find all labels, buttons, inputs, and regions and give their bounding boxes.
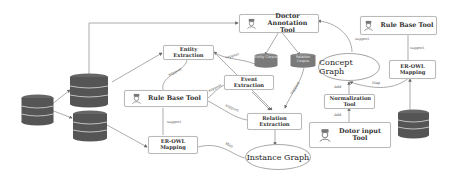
doctor-icon: [318, 128, 332, 142]
database-icon: [69, 73, 109, 109]
entity-extraction: Entity Extraction: [163, 45, 214, 60]
tool-icon: [363, 20, 374, 31]
doctor-input-tool: Dotor input Tool: [309, 122, 391, 148]
edge-label-add: Add: [334, 85, 341, 89]
relation-extraction: Relation Extraction: [247, 113, 302, 130]
edge-label-add: Add: [334, 113, 341, 117]
concept-graph: Concept Graph: [318, 53, 380, 81]
rule-base-tool-right: Rule Base Tool: [360, 16, 437, 35]
database-icon: [72, 110, 108, 142]
database-icon: [397, 109, 430, 139]
rule-base-tool-left: Rule Base Tool: [124, 90, 208, 107]
relation-corpus: Relation Corpus: [290, 53, 316, 68]
entity-corpus: Entity Corpus: [254, 53, 278, 68]
edge-label-support: support: [167, 120, 181, 124]
er-owl-mapping-left: ER-OWL Mapping: [148, 136, 198, 154]
tool-icon: [131, 93, 142, 104]
doctor-icon: [246, 18, 257, 29]
edge-label-support: support: [355, 37, 369, 41]
edge-label-support: support: [410, 46, 424, 50]
edge-label-map: Map: [372, 81, 380, 85]
doctor-annotation-tool: Doctor Annotation Tool: [239, 14, 319, 33]
event-extraction: Event Extraction: [224, 75, 274, 90]
architecture-diagram: Entity Corpus Relation Corpus Doctor Ann…: [0, 0, 457, 175]
entity-corpus-label: Entity Corpus: [254, 56, 278, 60]
instance-graph: Instance Graph: [245, 144, 311, 170]
database-icon: [20, 94, 55, 126]
er-owl-mapping-right: ER-OWL Mapping: [389, 60, 436, 79]
normalization-tool: Normalization Tool: [324, 94, 375, 109]
relation-corpus-label: Relation Corpus: [290, 56, 316, 64]
